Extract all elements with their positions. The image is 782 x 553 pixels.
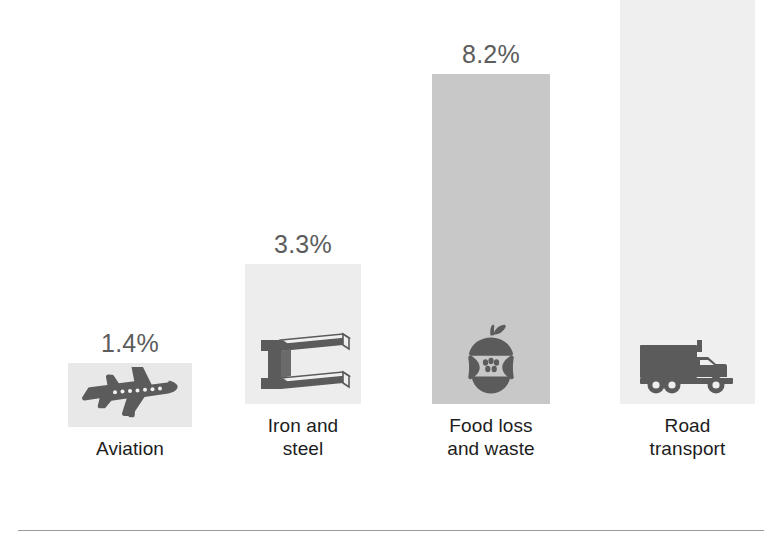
- bar-road-transport[interactable]: [620, 0, 755, 404]
- category-label-road-transport: Road transport: [650, 415, 726, 460]
- airplane-icon: [81, 367, 179, 423]
- bar-aviation[interactable]: [68, 363, 192, 427]
- i-beam-icon: [255, 332, 351, 400]
- category-label-food-loss-and-waste: Food loss and waste: [447, 415, 535, 460]
- baseline-rule: [18, 530, 764, 531]
- value-label-iron-and-steel: 3.3%: [274, 232, 332, 257]
- value-label-food-loss-and-waste: 8.2%: [462, 42, 520, 67]
- value-label-aviation: 1.4%: [101, 331, 159, 356]
- bar-chart: 1.4%: [0, 0, 782, 553]
- bar-column-food-loss-and-waste: 8.2%: [432, 42, 550, 460]
- apple-core-icon: [454, 322, 528, 400]
- bar-food-loss-and-waste[interactable]: [432, 74, 550, 404]
- bar-column-road-transport: 10.0%: [620, 0, 755, 460]
- bar-column-iron-and-steel: 3.3% Iron a: [245, 232, 361, 460]
- category-label-iron-and-steel: Iron and steel: [245, 415, 361, 460]
- bar-column-aviation: 1.4%: [68, 331, 192, 460]
- truck-icon: [636, 338, 740, 400]
- category-label-aviation: Aviation: [96, 438, 164, 460]
- bar-iron-and-steel[interactable]: [245, 264, 361, 404]
